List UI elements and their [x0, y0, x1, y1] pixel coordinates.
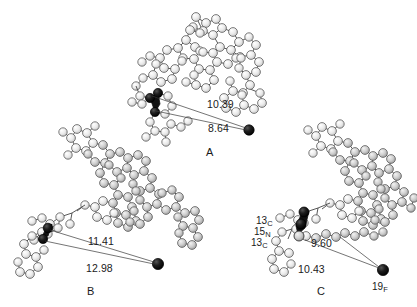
panel-a-labeled-atoms	[145, 88, 162, 116]
panel-c-molecule	[268, 120, 417, 277]
panel-c-13c-bottom-atom	[294, 231, 304, 241]
panel-a-molecule	[128, 13, 267, 147]
panel-a-letter: A	[206, 146, 213, 158]
isotope-mass-19f: 19	[372, 281, 383, 292]
isotope-element-13c-bottom: C	[262, 241, 267, 250]
molecular-structures-figure: 10.39 8.64 A 11.41 12.98 B 13C 15N 13C 9…	[0, 0, 417, 307]
isotope-mass-13c-bottom: 13	[251, 237, 262, 248]
panel-c-19f-atom	[377, 264, 388, 275]
panel-c-isotope-15n: 15N	[254, 226, 271, 237]
panel-b-molecule	[14, 122, 204, 279]
panel-b-distance-label-2: 12.98	[86, 262, 113, 274]
panel-c-isotope-13c-top: 13C	[256, 215, 273, 226]
isotope-mass-15n: 15	[254, 226, 265, 237]
panel-c-isotope-13c-bottom: 13C	[251, 237, 268, 248]
panel-c-isotope-19f: 19F	[372, 281, 388, 292]
panel-c-15n-atom	[296, 219, 306, 229]
panel-b-distance-label-1: 11.41	[88, 235, 114, 247]
isotope-element-19f: F	[383, 285, 388, 294]
panel-c-distance-label-1: 9.60	[311, 237, 332, 249]
panel-b-fluorine-atom	[152, 258, 163, 269]
panel-c-distance-label-2: 10.43	[298, 263, 325, 275]
panel-c-letter: C	[317, 285, 325, 297]
panel-b-letter: B	[87, 285, 94, 297]
panel-a-distance-label-2: 8.64	[208, 122, 229, 134]
panel-c-13c-top-atom	[299, 207, 309, 217]
panel-a-distance-label-1: 10.39	[207, 98, 234, 110]
isotope-mass-13c-top: 13	[256, 215, 267, 226]
